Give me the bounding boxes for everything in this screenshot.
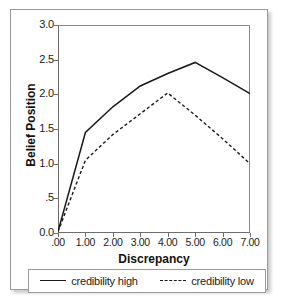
y-axis-title: Belief Position	[24, 60, 38, 190]
x-tick-mark	[250, 233, 251, 237]
x-tick-mark	[168, 233, 169, 237]
y-tick-mark	[54, 198, 58, 199]
legend-item-credibility-low: credibility low	[160, 275, 253, 287]
y-tick-label: 3.0	[14, 19, 54, 30]
x-axis-tick-labels: .001.002.003.004.005.006.007.00	[58, 236, 254, 252]
line-series-credibility-high	[58, 62, 250, 231]
chart-legend: credibility high credibility low	[28, 269, 266, 293]
line-series-credibility-low	[58, 93, 250, 232]
y-tick-label: .5	[14, 192, 54, 203]
chart-card: 0.0.51.01.52.02.53.0 .001.002.003.004.00…	[10, 9, 268, 290]
legend-item-credibility-high: credibility high	[40, 275, 138, 287]
x-tick-mark	[58, 233, 59, 237]
x-tick-mark	[113, 233, 114, 237]
x-tick-mark	[195, 233, 196, 237]
x-tick-mark	[85, 233, 86, 237]
legend-label: credibility high	[71, 275, 138, 287]
y-tick-mark	[54, 129, 58, 130]
x-tick-label: 7.00	[233, 236, 267, 248]
figure-canvas: 0.0.51.01.52.02.53.0 .001.002.003.004.00…	[0, 0, 281, 308]
x-tick-mark	[223, 233, 224, 237]
y-tick-mark	[54, 25, 58, 26]
plot-wrapper: 0.0.51.01.52.02.53.0 .001.002.003.004.00…	[11, 10, 269, 291]
y-tick-mark	[54, 164, 58, 165]
legend-line-dashed-icon	[160, 278, 186, 284]
x-tick-mark	[140, 233, 141, 237]
y-tick-mark	[54, 94, 58, 95]
y-tick-mark	[54, 60, 58, 61]
legend-label: credibility low	[191, 275, 253, 287]
data-lines-layer	[58, 25, 250, 233]
x-axis-title: Discrepancy	[58, 252, 250, 266]
legend-line-solid-icon	[40, 278, 66, 284]
